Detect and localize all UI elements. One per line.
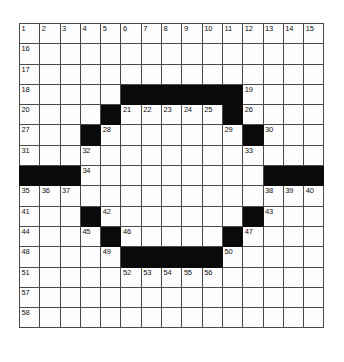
crossword-cell[interactable] [40, 105, 60, 125]
crossword-cell[interactable] [263, 145, 283, 165]
crossword-cell[interactable] [121, 287, 141, 307]
crossword-cell[interactable]: 4 [80, 24, 100, 44]
crossword-cell[interactable] [162, 186, 182, 206]
crossword-cell[interactable] [182, 308, 202, 328]
crossword-cell[interactable] [304, 64, 324, 84]
crossword-cell[interactable]: 49 [101, 247, 121, 267]
crossword-cell[interactable]: 30 [263, 125, 283, 145]
crossword-cell[interactable] [222, 145, 242, 165]
crossword-cell[interactable] [60, 64, 80, 84]
crossword-cell[interactable] [283, 44, 303, 64]
crossword-cell[interactable] [121, 145, 141, 165]
crossword-cell[interactable] [60, 267, 80, 287]
crossword-cell[interactable]: 54 [162, 267, 182, 287]
crossword-cell[interactable] [141, 287, 161, 307]
crossword-cell[interactable]: 3 [60, 24, 80, 44]
crossword-cell[interactable] [60, 84, 80, 104]
crossword-cell[interactable] [243, 287, 263, 307]
crossword-cell[interactable] [101, 267, 121, 287]
crossword-cell[interactable] [202, 125, 222, 145]
crossword-cell[interactable] [243, 186, 263, 206]
crossword-cell[interactable]: 6 [121, 24, 141, 44]
crossword-cell[interactable] [222, 206, 242, 226]
crossword-cell[interactable] [283, 267, 303, 287]
crossword-cell[interactable] [304, 125, 324, 145]
crossword-cell[interactable] [80, 247, 100, 267]
crossword-cell[interactable] [304, 44, 324, 64]
crossword-cell[interactable] [182, 44, 202, 64]
crossword-cell[interactable]: 9 [182, 24, 202, 44]
crossword-cell[interactable]: 38 [263, 186, 283, 206]
crossword-cell[interactable] [222, 64, 242, 84]
crossword-cell[interactable] [40, 84, 60, 104]
crossword-cell[interactable]: 19 [243, 84, 263, 104]
crossword-cell[interactable]: 57 [20, 287, 40, 307]
crossword-cell[interactable]: 47 [243, 226, 263, 246]
crossword-cell[interactable] [283, 125, 303, 145]
crossword-cell[interactable] [80, 84, 100, 104]
crossword-cell[interactable] [283, 308, 303, 328]
crossword-cell[interactable] [141, 308, 161, 328]
crossword-cell[interactable]: 10 [202, 24, 222, 44]
crossword-cell[interactable] [263, 287, 283, 307]
crossword-cell[interactable] [222, 186, 242, 206]
crossword-cell[interactable] [60, 247, 80, 267]
crossword-cell[interactable] [283, 105, 303, 125]
crossword-cell[interactable] [263, 84, 283, 104]
crossword-cell[interactable] [40, 145, 60, 165]
crossword-cell[interactable] [40, 226, 60, 246]
crossword-cell[interactable]: 17 [20, 64, 40, 84]
crossword-cell[interactable] [121, 166, 141, 186]
crossword-cell[interactable] [304, 84, 324, 104]
crossword-cell[interactable] [80, 267, 100, 287]
crossword-cell[interactable] [304, 226, 324, 246]
crossword-cell[interactable]: 25 [202, 105, 222, 125]
crossword-cell[interactable] [60, 105, 80, 125]
crossword-cell[interactable] [182, 226, 202, 246]
crossword-cell[interactable] [121, 125, 141, 145]
crossword-cell[interactable]: 55 [182, 267, 202, 287]
crossword-cell[interactable] [243, 267, 263, 287]
crossword-cell[interactable]: 1 [20, 24, 40, 44]
crossword-cell[interactable]: 56 [202, 267, 222, 287]
crossword-cell[interactable]: 24 [182, 105, 202, 125]
crossword-cell[interactable]: 27 [20, 125, 40, 145]
crossword-cell[interactable] [202, 206, 222, 226]
crossword-cell[interactable] [121, 186, 141, 206]
crossword-cell[interactable] [182, 206, 202, 226]
crossword-cell[interactable] [304, 105, 324, 125]
crossword-cell[interactable] [182, 145, 202, 165]
crossword-cell[interactable] [263, 105, 283, 125]
crossword-cell[interactable] [101, 145, 121, 165]
crossword-cell[interactable] [222, 308, 242, 328]
crossword-cell[interactable]: 12 [243, 24, 263, 44]
crossword-cell[interactable] [60, 287, 80, 307]
crossword-cell[interactable] [304, 267, 324, 287]
crossword-cell[interactable]: 8 [162, 24, 182, 44]
crossword-cell[interactable] [263, 44, 283, 64]
crossword-cell[interactable] [40, 267, 60, 287]
crossword-cell[interactable]: 46 [121, 226, 141, 246]
crossword-cell[interactable] [283, 145, 303, 165]
crossword-cell[interactable]: 23 [162, 105, 182, 125]
crossword-cell[interactable]: 15 [304, 24, 324, 44]
crossword-cell[interactable] [40, 206, 60, 226]
crossword-cell[interactable] [243, 308, 263, 328]
crossword-cell[interactable]: 33 [243, 145, 263, 165]
crossword-cell[interactable] [162, 226, 182, 246]
crossword-cell[interactable] [162, 166, 182, 186]
crossword-cell[interactable] [182, 166, 202, 186]
crossword-cell[interactable]: 37 [60, 186, 80, 206]
crossword-cell[interactable]: 58 [20, 308, 40, 328]
crossword-cell[interactable] [141, 226, 161, 246]
crossword-cell[interactable]: 35 [20, 186, 40, 206]
crossword-cell[interactable] [80, 105, 100, 125]
crossword-cell[interactable] [40, 125, 60, 145]
crossword-cell[interactable] [283, 287, 303, 307]
crossword-cell[interactable] [202, 308, 222, 328]
crossword-cell[interactable] [40, 44, 60, 64]
crossword-cell[interactable] [304, 247, 324, 267]
crossword-cell[interactable] [182, 287, 202, 307]
crossword-cell[interactable] [141, 145, 161, 165]
crossword-cell[interactable] [121, 64, 141, 84]
